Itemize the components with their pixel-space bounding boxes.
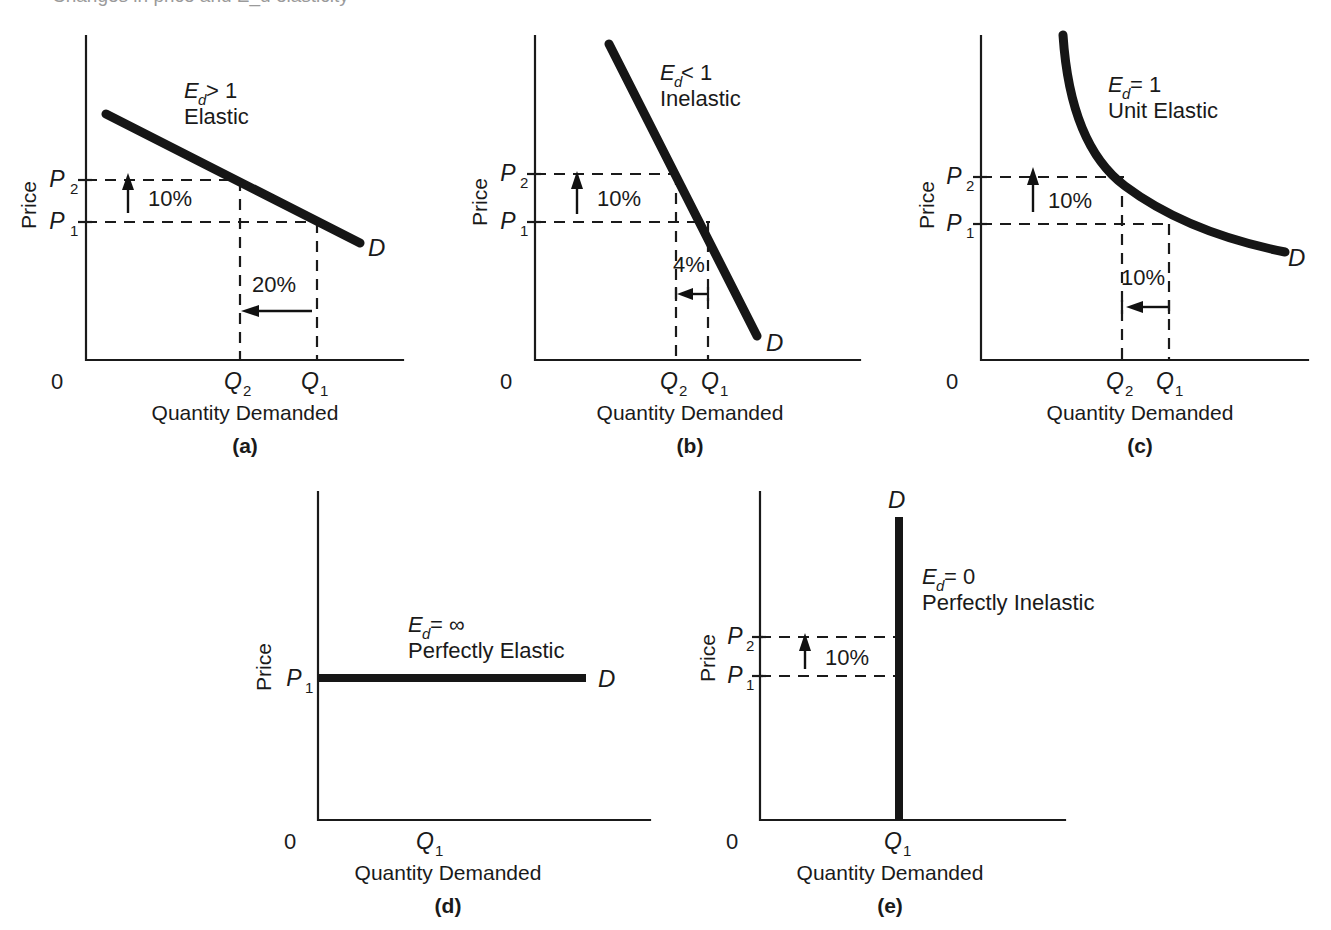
- panel-b-quantity-change-label: 4%: [673, 252, 705, 277]
- panel-c-quantity-change-label: 10%: [1121, 265, 1165, 290]
- panel-d-demand-label: D: [598, 665, 615, 692]
- panel-b-elasticity-name: Inelastic: [660, 86, 741, 111]
- panel-b-demand-label: D: [766, 329, 783, 356]
- panel-d-elasticity-relation: = ∞: [430, 612, 465, 637]
- panel-e-q1-sub: 1: [903, 842, 911, 859]
- panel-a-price-arrow-head: [122, 173, 134, 190]
- panel-a-y-axis-label: Price: [17, 181, 40, 229]
- panel-b-q2-label: Q: [660, 368, 678, 394]
- panel-e-price-arrow-head: [799, 633, 811, 651]
- panel-b-caption: (b): [677, 434, 704, 457]
- panel-d-elasticity-name: Perfectly Elastic: [408, 638, 565, 663]
- panel-e-elasticity-symbol: E: [922, 564, 937, 589]
- panel-d-elasticity-symbol: E: [408, 612, 423, 637]
- panel-a-p1-label: P: [49, 208, 65, 234]
- panel-b-qty-arrow-head: [677, 288, 693, 300]
- panel-b-p2-sub: 2: [520, 174, 528, 191]
- panel-b-p1-label: P: [500, 208, 516, 234]
- panel-c-q2-sub: 2: [1125, 382, 1133, 399]
- panel-c-p1-label: P: [946, 210, 962, 236]
- panel-e-p1-label: P: [727, 662, 743, 688]
- panel-b-price-change-label: 10%: [597, 186, 641, 211]
- panel-b-origin-label: 0: [500, 369, 512, 394]
- panel-d: Price P 1 Q 1 0 E d = ∞ Perfectly Elasti…: [252, 492, 650, 917]
- figure-canvas: Price P 2 P 1 Q 2 Q 1 0 E d > 1 Elastic …: [0, 0, 1331, 930]
- panel-e-elasticity-name: Perfectly Inelastic: [922, 590, 1094, 615]
- panel-d-caption: (d): [435, 894, 462, 917]
- panel-e-origin-label: 0: [726, 829, 738, 854]
- panel-d-x-axis-label: Quantity Demanded: [355, 861, 542, 884]
- panel-e-p2-label: P: [727, 623, 743, 649]
- panel-c-q1-sub: 1: [1175, 382, 1183, 399]
- panel-a-q1-label: Q: [301, 368, 319, 394]
- panel-a-price-change-label: 10%: [148, 186, 192, 211]
- panel-e-y-axis-label: Price: [696, 634, 719, 682]
- panel-d-p1-sub: 1: [305, 679, 313, 696]
- panel-c-qty-arrow-head: [1126, 301, 1143, 313]
- panel-e: Price P 2 P 1 Q 1 0 E d = 0 Perfectly In…: [696, 486, 1094, 917]
- panel-b: Price P 2 P 1 Q 2 Q 1 0 E d < 1 Inelasti…: [468, 36, 860, 457]
- panel-a-quantity-change-label: 20%: [252, 272, 296, 297]
- panel-a-p2-label: P: [49, 166, 65, 192]
- panel-a-elasticity-name: Elastic: [184, 104, 249, 129]
- panel-c-demand-curve: [1063, 35, 1285, 252]
- panel-a-q1-sub: 1: [320, 382, 328, 399]
- panel-c-p2-label: P: [946, 163, 962, 189]
- panel-a-demand-label: D: [368, 234, 385, 261]
- panel-e-q1-label: Q: [884, 828, 902, 854]
- panel-e-elasticity-relation: = 0: [944, 564, 975, 589]
- panel-e-p2-sub: 2: [746, 637, 754, 654]
- panel-c: Price P 2 P 1 Q 2 Q 1 0 E d = 1 Unit Ela…: [915, 35, 1308, 457]
- panel-c-demand-label: D: [1288, 244, 1305, 271]
- panel-c-p2-sub: 2: [966, 177, 974, 194]
- panel-b-x-axis-label: Quantity Demanded: [597, 401, 784, 424]
- panel-c-elasticity-relation: = 1: [1130, 72, 1161, 97]
- panel-c-q1-label: Q: [1156, 368, 1174, 394]
- panel-b-y-axis-label: Price: [468, 178, 491, 226]
- panel-a-elasticity-relation: > 1: [206, 78, 237, 103]
- panel-d-q1-label: Q: [416, 828, 434, 854]
- panel-d-q1-sub: 1: [435, 842, 443, 859]
- panel-c-price-change-label: 10%: [1048, 188, 1092, 213]
- panel-a: Price P 2 P 1 Q 2 Q 1 0 E d > 1 Elastic …: [17, 36, 403, 457]
- panel-c-p1-sub: 1: [966, 224, 974, 241]
- panel-e-x-axis-label: Quantity Demanded: [797, 861, 984, 884]
- panel-a-x-axis-label: Quantity Demanded: [152, 401, 339, 424]
- panel-a-q2-sub: 2: [243, 382, 251, 399]
- panel-c-caption: (c): [1127, 434, 1153, 457]
- panel-e-demand-label: D: [888, 486, 905, 513]
- panel-b-elasticity-symbol: E: [660, 60, 675, 85]
- elasticity-figure: Price P 2 P 1 Q 2 Q 1 0 E d > 1 Elastic …: [0, 0, 1331, 930]
- panel-b-p2-label: P: [500, 160, 516, 186]
- panel-c-y-axis-label: Price: [915, 181, 938, 229]
- panel-d-origin-label: 0: [284, 829, 296, 854]
- panel-e-caption: (e): [877, 894, 903, 917]
- panel-c-q2-label: Q: [1106, 368, 1124, 394]
- panel-b-q2-sub: 2: [679, 382, 687, 399]
- panel-a-q2-label: Q: [224, 368, 242, 394]
- panel-c-elasticity-symbol: E: [1108, 72, 1123, 97]
- panel-e-p1-sub: 1: [746, 676, 754, 693]
- panel-a-elasticity-symbol: E: [184, 78, 199, 103]
- panel-a-caption: (a): [232, 434, 258, 457]
- panel-a-p1-sub: 1: [70, 222, 78, 239]
- panel-a-demand-curve: [106, 114, 360, 243]
- panel-e-price-change-label: 10%: [825, 645, 869, 670]
- panel-d-y-axis-label: Price: [252, 643, 275, 691]
- panel-b-p1-sub: 1: [520, 222, 528, 239]
- panel-b-elasticity-relation: < 1: [681, 60, 712, 85]
- panel-a-origin-label: 0: [51, 369, 63, 394]
- panel-c-elasticity-name: Unit Elastic: [1108, 98, 1218, 123]
- panel-a-qty-arrow-head: [241, 305, 259, 317]
- panel-d-p1-label: P: [286, 665, 302, 691]
- panel-b-q1-label: Q: [701, 368, 719, 394]
- panel-a-p2-sub: 2: [70, 180, 78, 197]
- panel-c-x-axis-label: Quantity Demanded: [1047, 401, 1234, 424]
- panel-c-origin-label: 0: [946, 369, 958, 394]
- panel-b-q1-sub: 1: [720, 382, 728, 399]
